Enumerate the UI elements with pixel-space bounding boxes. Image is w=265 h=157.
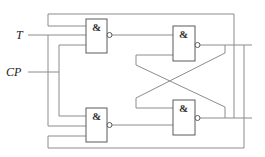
inversion-bubble [107,33,112,38]
wire-cp [28,45,86,116]
inversion-bubble [195,116,200,121]
input-label-cp: CP [6,65,22,79]
input-label-t: T [16,28,24,42]
inversion-bubble [107,123,112,128]
gate-symbol: & [92,21,101,33]
gate-symbol: & [179,102,188,114]
nand-gate-1: & [86,19,112,53]
inversion-bubble [195,43,200,48]
gate-symbol: & [92,110,101,122]
nand-gate-2: & [86,108,112,142]
wire-t [28,35,86,126]
circuit-diagram: T CP & & [0,0,265,157]
nand-gate-3: & [173,26,200,61]
nand-gate-4: & [173,100,200,135]
wire-bottom-feedback [48,45,244,148]
gate-symbol: & [179,28,188,40]
wire-top-feedback [48,14,234,118]
